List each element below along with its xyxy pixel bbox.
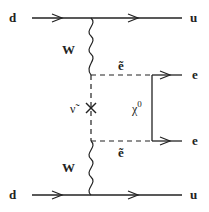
label-selectron-bottom: ẽ xyxy=(118,145,124,160)
electron-top-line xyxy=(152,71,182,79)
label-w-bottom: W xyxy=(62,160,75,175)
label-sneutrino: ν̃ xyxy=(70,102,79,116)
label-bottom-in: d xyxy=(9,187,17,202)
feynman-diagram: d u W ẽ e ν̃ χ0 e ẽ W d u xyxy=(0,0,209,212)
bottom-quark-line xyxy=(32,191,182,199)
w-boson-bottom xyxy=(89,141,93,195)
w-boson-top xyxy=(89,18,93,75)
label-bottom-out: u xyxy=(190,187,197,202)
label-neutralino: χ0 xyxy=(131,99,142,116)
label-top-out: u xyxy=(190,10,197,25)
top-quark-line xyxy=(32,14,182,22)
label-selectron-top: ẽ xyxy=(118,58,124,73)
label-top-in: d xyxy=(9,10,17,25)
label-e-bottom: e xyxy=(192,133,198,148)
label-e-top: e xyxy=(192,67,198,82)
diagram-svg: d u W ẽ e ν̃ χ0 e ẽ W d u xyxy=(0,0,209,212)
label-w-top: W xyxy=(62,42,75,57)
electron-bottom-line xyxy=(152,137,182,145)
